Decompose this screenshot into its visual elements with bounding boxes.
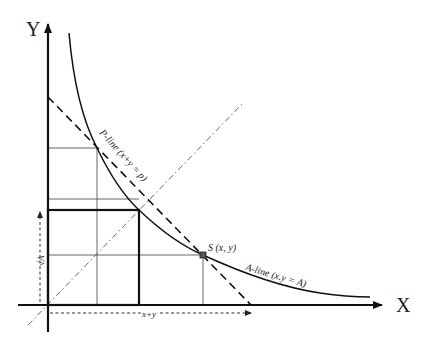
diagonal-x-equals-y: [28, 103, 243, 325]
x-plus-y-label: x+y: [141, 309, 156, 319]
diagram-canvas: Y X S (x, y) A-line (x.y = A) P-line (x+…: [0, 0, 430, 352]
point-s-marker: [200, 252, 206, 258]
sqrt-a-label: √A: [36, 255, 46, 266]
y-axis-label: Y: [26, 18, 40, 40]
point-s-label: S (x, y): [208, 242, 237, 254]
p-line: [48, 97, 251, 305]
x-axis-label: X: [396, 294, 411, 316]
guide-lines: [48, 148, 203, 305]
